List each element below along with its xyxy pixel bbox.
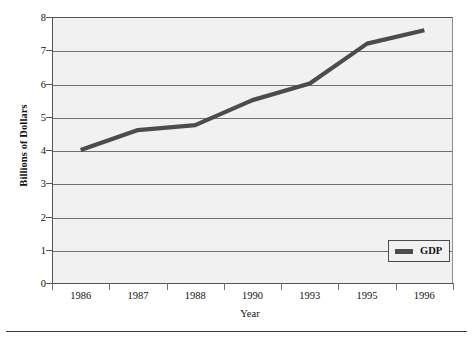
y-axis-tick-mark [46,84,52,85]
x-axis-tick-mark [338,283,339,290]
line-chart-figure: Billions of Dollars 012345678 1986198719… [0,0,473,345]
x-axis-tick-label: 1987 [108,290,168,301]
y-axis-tick-label: 1 [6,244,46,255]
x-axis-tick-mark [224,283,225,290]
y-axis-tick-label: 4 [6,145,46,156]
y-axis-tick-labels: 012345678 [0,0,46,345]
y-axis-tick-label: 6 [6,78,46,89]
x-axis-tick-mark [167,283,168,290]
y-axis-tick-mark [46,183,52,184]
y-axis-tick-label: 2 [6,211,46,222]
x-axis-tick-label: 1996 [394,290,454,301]
x-axis-line [52,283,453,284]
y-axis-tick-mark [46,117,52,118]
y-axis-tick-mark [46,283,52,284]
x-axis-title: Year [0,308,473,319]
data-line-gdp [81,30,425,150]
y-axis-tick-mark [46,17,52,18]
y-axis-tick-mark [46,150,52,151]
x-axis-tick-label: 1995 [337,290,397,301]
y-axis-tick-label: 7 [6,45,46,56]
x-axis-tick-mark [109,283,110,290]
legend-label-gdp: GDP [420,246,442,257]
y-axis-tick-mark [46,250,52,251]
x-axis-tick-mark [396,283,397,290]
y-axis-tick-mark [46,50,52,51]
x-axis-tick-label: 1988 [165,290,225,301]
y-axis-tick-label: 3 [6,178,46,189]
x-axis-tick-label: 1986 [51,290,111,301]
y-axis-tick-mark [46,217,52,218]
x-axis-tick-label: 1993 [280,290,340,301]
footer-rule [6,331,467,332]
x-axis-tick-mark [52,283,53,290]
y-axis-tick-label: 8 [6,12,46,23]
y-axis-tick-label: 5 [6,111,46,122]
x-axis-tick-mark [453,283,454,290]
legend-swatch-gdp [395,249,413,254]
chart-legend[interactable]: GDP [388,240,450,262]
x-axis-tick-mark [281,283,282,290]
x-axis-tick-label: 1990 [223,290,283,301]
y-axis-tick-label: 0 [6,278,46,289]
